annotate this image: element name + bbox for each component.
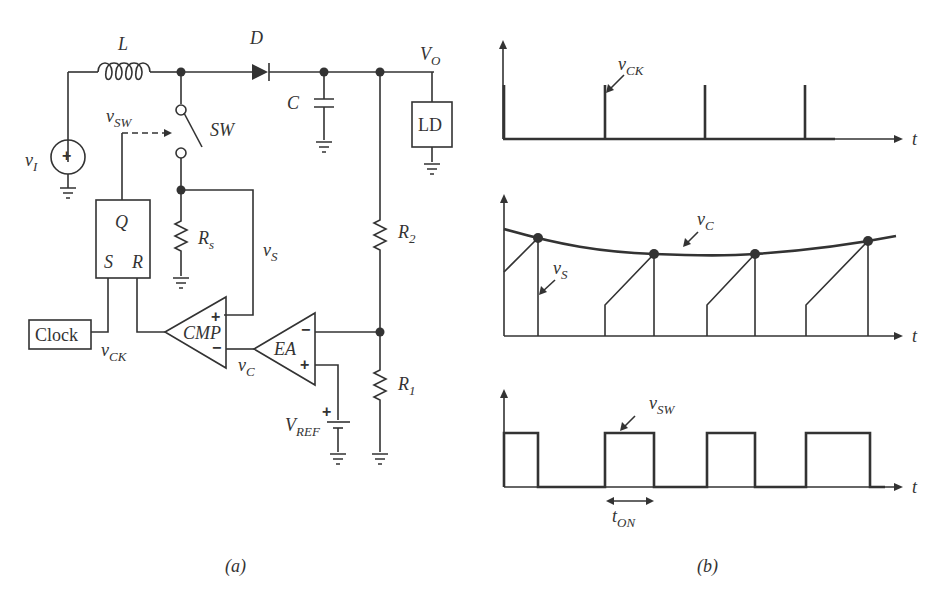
comparator: + − CMP — [165, 297, 226, 368]
reference-battery: + VREF — [285, 403, 350, 464]
ton-label: tON — [612, 506, 636, 530]
sr-flip-flop: Q S R — [96, 200, 150, 278]
vref-plus: + — [322, 403, 331, 420]
voltage-divider: R2 R1 — [372, 72, 416, 464]
ea-minus: − — [301, 321, 310, 338]
ground-icon — [316, 142, 332, 152]
rs-label: Rs — [197, 228, 214, 252]
vo-label: VO — [420, 44, 441, 68]
vs-wave-label: vS — [553, 258, 568, 282]
capacitor: C — [287, 68, 334, 153]
switch: SW — [176, 72, 236, 190]
vsw-label: vSW — [106, 106, 133, 130]
source-plus-sign: + — [62, 147, 71, 164]
switch-t-axis-label: t — [912, 477, 918, 497]
vck-wave-label: vCK — [618, 54, 645, 78]
input-voltage-source: + vI — [25, 72, 98, 198]
load-label: LD — [418, 115, 442, 135]
vc-label: vC — [238, 355, 255, 379]
sense-control-plot: t vC vS — [500, 194, 918, 346]
cmp-label: CMP — [183, 323, 221, 343]
ea-label: EA — [273, 339, 297, 359]
ground-icon — [330, 454, 346, 464]
sense-resistor: Rs — [173, 186, 214, 289]
vs-label: vS — [263, 240, 278, 264]
clock-waveform-plot: t vCK — [499, 40, 918, 149]
flipflop-s-label: S — [104, 252, 113, 272]
sense-t-axis-label: t — [912, 326, 918, 346]
ground-icon — [424, 164, 440, 174]
diode: D — [249, 28, 434, 81]
waveforms: t vCK t vC — [499, 40, 918, 577]
diode-label: D — [249, 28, 263, 48]
ground-icon — [173, 278, 189, 288]
vsw-wave-label: vSW — [649, 393, 676, 417]
panel-b-caption: (b) — [697, 556, 718, 577]
vck-label: vCK — [101, 340, 128, 364]
ground-icon — [372, 454, 388, 464]
capacitor-label: C — [287, 93, 300, 113]
error-amplifier: − + EA — [254, 313, 315, 385]
panel-a-caption: (a) — [225, 556, 246, 577]
vc-wave-label: vC — [697, 209, 714, 233]
switch-label: SW — [210, 120, 236, 140]
circuit-schematic: + vI L D — [25, 28, 452, 577]
ground-icon — [60, 188, 76, 198]
vi-label: vI — [25, 150, 38, 174]
inductor: L — [98, 34, 181, 80]
load: LD VO — [376, 44, 453, 174]
clock-block: Clock vCK — [29, 278, 128, 364]
switch-control-signal: vSW — [106, 106, 172, 200]
figure-canvas: + vI L D — [0, 0, 942, 604]
flipflop-q-label: Q — [115, 212, 128, 232]
r2-label: R2 — [397, 222, 416, 246]
vref-label: VREF — [285, 415, 321, 439]
ea-plus: + — [300, 356, 309, 373]
flipflop-r-label: R — [131, 252, 143, 272]
switch-waveform-plot: t vSW tON — [500, 389, 918, 530]
clock-t-axis-label: t — [912, 129, 918, 149]
r1-label: R1 — [397, 374, 416, 398]
inductor-label: L — [117, 34, 128, 54]
clock-label: Clock — [35, 325, 78, 345]
